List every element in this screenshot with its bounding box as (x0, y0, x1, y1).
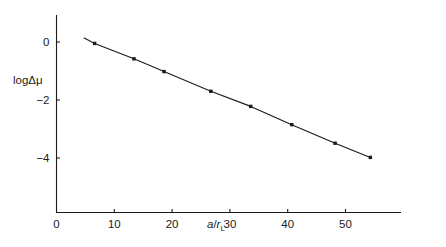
plot-canvas: 010203040500−2−4 logΔμ a/rL (0, 0, 446, 247)
tick-labels: 010203040500−2−4 (36, 36, 352, 230)
data-point (93, 42, 96, 45)
data-point (209, 90, 212, 93)
data-point (333, 142, 336, 145)
x-tick-label-30: 30 (224, 218, 237, 230)
y-axis-title: logΔμ (13, 74, 43, 86)
tick-marks (57, 42, 346, 213)
chart-figure: 010203040500−2−4 logΔμ a/rL (0, 0, 446, 247)
x-tick-label-10: 10 (108, 218, 121, 230)
data-point (369, 156, 372, 159)
y-tick-label-0: 0 (43, 36, 49, 48)
data-point (162, 70, 165, 73)
x-tick-label-0: 0 (53, 218, 59, 230)
x-tick-label-40: 40 (281, 218, 294, 230)
x-tick-label-20: 20 (166, 218, 179, 230)
y-tick-label--4: −4 (36, 152, 50, 164)
data-point (132, 57, 135, 60)
data-curve (84, 38, 370, 157)
y-tick-label--2: −2 (36, 94, 49, 106)
data-point (249, 105, 252, 108)
x-tick-label-50: 50 (339, 218, 352, 230)
axis-lines (56, 15, 401, 213)
data-point (290, 123, 293, 126)
